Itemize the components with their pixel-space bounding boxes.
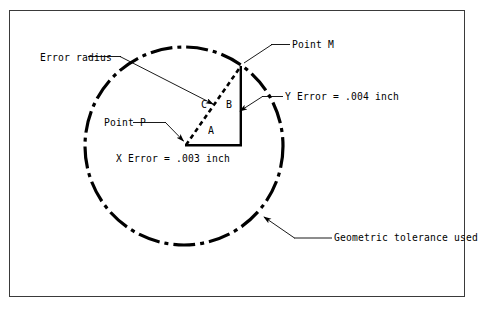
point-p-label: Point P bbox=[104, 117, 146, 128]
geometric-tolerance-label: Geometric tolerance used bbox=[334, 232, 478, 243]
x-error-label: X Error = .003 inch bbox=[116, 153, 230, 164]
side-a-label: A bbox=[208, 125, 214, 136]
diagram-canvas bbox=[0, 0, 478, 311]
error-radius-label: Error radius bbox=[40, 52, 112, 63]
y-error-leader-line bbox=[240, 97, 263, 112]
side-c-label: C bbox=[201, 99, 207, 110]
figure-root: Error radius Point M Point P Y Error = .… bbox=[0, 0, 478, 311]
point-p-leader-line bbox=[166, 123, 184, 142]
error-radius-leader-line bbox=[120, 57, 213, 105]
point-m-leader-line bbox=[244, 45, 272, 64]
y-error-label: Y Error = .004 inch bbox=[285, 91, 399, 102]
side-b-label: B bbox=[226, 99, 232, 110]
point-m-label: Point M bbox=[292, 39, 334, 50]
geometric-tolerance-leader-line bbox=[264, 217, 295, 238]
tolerance-circle bbox=[85, 47, 283, 245]
